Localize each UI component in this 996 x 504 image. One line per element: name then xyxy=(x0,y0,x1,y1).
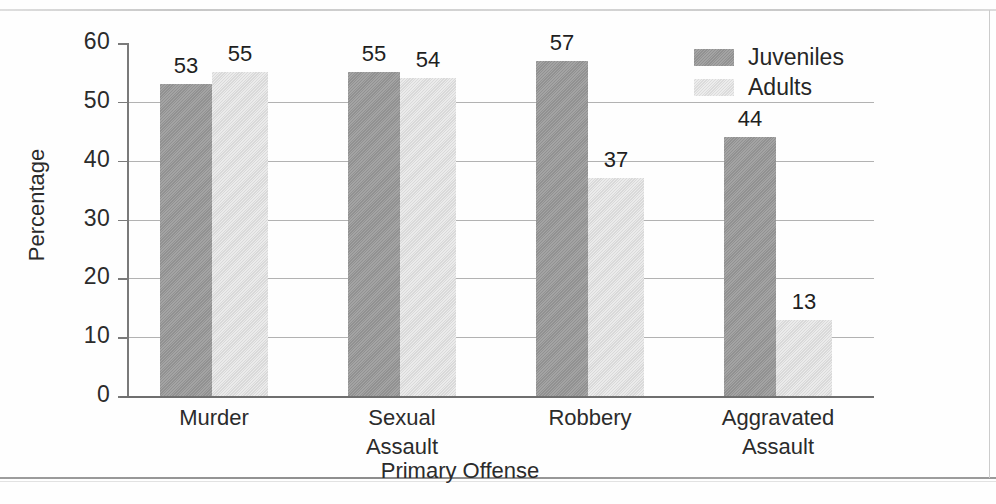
x-category-label-line: Sexual xyxy=(368,405,435,430)
adult-swatch-icon xyxy=(694,79,734,96)
bar-value-adults-murder: 55 xyxy=(200,41,280,67)
x-category-label-aggravated-assault: AggravatedAssault xyxy=(678,403,878,461)
bar-value-adults-sexual-assault: 54 xyxy=(388,47,468,73)
chart-legend: Juveniles Adults xyxy=(694,42,844,102)
x-axis-line xyxy=(120,396,874,398)
y-tick-label-0: 0 xyxy=(58,381,110,408)
x-category-label-line: Assault xyxy=(366,434,438,459)
legend-item-juveniles[interactable]: Juveniles xyxy=(694,42,844,72)
y-axis-line xyxy=(127,43,129,397)
y-tick-label-60: 60 xyxy=(58,28,110,55)
bar-juveniles-robbery[interactable] xyxy=(536,61,588,396)
bar-adults-sexual-assault[interactable] xyxy=(400,78,456,396)
bar-adults-aggravated-assault[interactable] xyxy=(776,320,832,396)
bar-adults-murder[interactable] xyxy=(212,72,268,396)
x-category-label-line: Murder xyxy=(179,405,249,430)
bar-juveniles-sexual-assault[interactable] xyxy=(348,72,400,396)
y-tick-label-10: 10 xyxy=(58,322,110,349)
legend-item-adults[interactable]: Adults xyxy=(694,72,844,102)
bar-value-juveniles-aggravated-assault: 44 xyxy=(712,106,788,132)
x-category-label-sexual-assault: SexualAssault xyxy=(302,403,502,461)
x-category-label-line: Assault xyxy=(742,434,814,459)
x-category-label-murder: Murder xyxy=(114,403,314,432)
y-tick-label-40: 40 xyxy=(58,146,110,173)
chart-page: 0102030405060 Percentage 535555545737441… xyxy=(0,0,996,504)
bar-value-adults-robbery: 37 xyxy=(576,147,656,173)
y-tick-label-50: 50 xyxy=(58,87,110,114)
y-tick-label-20: 20 xyxy=(58,263,110,290)
bar-juveniles-murder[interactable] xyxy=(160,84,212,396)
x-category-label-line: Robbery xyxy=(548,405,631,430)
x-category-label-robbery: Robbery xyxy=(490,403,690,432)
x-axis-title: Primary Offense xyxy=(0,458,920,484)
bar-adults-robbery[interactable] xyxy=(588,178,644,396)
y-axis-title: Percentage xyxy=(24,125,50,285)
juvenile-swatch-icon xyxy=(694,49,734,66)
legend-label-adults: Adults xyxy=(748,74,812,101)
x-category-label-line: Aggravated xyxy=(722,405,835,430)
bar-value-juveniles-robbery: 57 xyxy=(524,30,600,56)
bar-value-adults-aggravated-assault: 13 xyxy=(764,289,844,315)
y-tick-label-30: 30 xyxy=(58,205,110,232)
bar-juveniles-aggravated-assault[interactable] xyxy=(724,137,776,396)
legend-label-juveniles: Juveniles xyxy=(748,44,844,71)
bar-chart-plot-area: 0102030405060 Percentage 535555545737441… xyxy=(0,0,996,504)
